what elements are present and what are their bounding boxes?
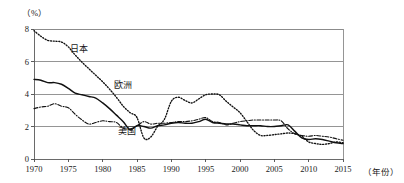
line-chart: 02468 1970197519801985199019952000200520… (0, 0, 404, 183)
y-axis-tick-labels: 02468 (25, 24, 30, 164)
series-label-2: 美国 (118, 125, 136, 136)
chart-container: 02468 1970197519801985199019952000200520… (0, 0, 404, 183)
y-tick-label-8: 8 (25, 24, 29, 34)
series-inline-labels: 日本欧洲美国 (70, 43, 136, 136)
y-axis-unit-label: （%） (22, 8, 47, 18)
x-tick-label-2015: 2015 (335, 164, 352, 174)
series-line-2 (34, 104, 343, 141)
x-tick-label-1985: 1985 (129, 164, 146, 174)
series-label-1: 欧洲 (114, 79, 132, 90)
x-tick-label-1970: 1970 (26, 164, 43, 174)
x-tick-label-1975: 1975 (60, 164, 77, 174)
x-axis-tick-labels: 1970197519801985199019952000200520102015 (26, 164, 352, 174)
x-axis-title: （年份） (363, 167, 399, 177)
x-tick-label-2010: 2010 (300, 164, 317, 174)
x-tick-label-1980: 1980 (94, 164, 111, 174)
y-tick-label-4: 4 (25, 89, 30, 99)
series-label-0: 日本 (70, 43, 88, 54)
x-tick-label-2005: 2005 (266, 164, 283, 174)
x-tick-label-1990: 1990 (163, 164, 180, 174)
y-tick-label-6: 6 (25, 57, 29, 67)
x-tick-label-1995: 1995 (197, 164, 214, 174)
y-tick-label-2: 2 (25, 122, 29, 132)
y-tick-label-0: 0 (25, 154, 29, 164)
x-tick-label-2000: 2000 (232, 164, 249, 174)
